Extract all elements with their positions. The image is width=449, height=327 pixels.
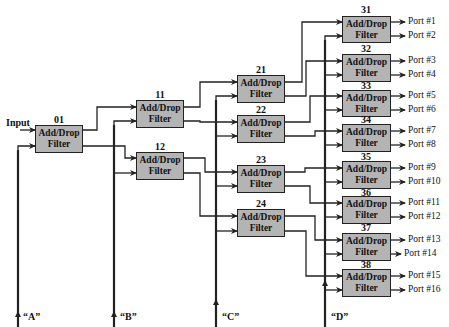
filter-label-line2: Filter <box>149 166 172 177</box>
port-10-label: Port #10 <box>408 176 440 186</box>
port-2-label: Port #2 <box>408 30 436 40</box>
port-12-label: Port #12 <box>408 211 440 221</box>
filter-label-line2: Filter <box>355 104 378 115</box>
filter-label-line2: Filter <box>250 129 273 140</box>
filter-label-line1: Add/Drop <box>240 168 281 179</box>
filter-32[interactable]: Add/Drop Filter <box>342 54 391 82</box>
add-drop-filter-tree-diagram: Input 01 Add/Drop Filter 11 Add/Drop Fil… <box>0 0 449 327</box>
filter-38[interactable]: Add/Drop Filter <box>342 269 391 297</box>
filter-31[interactable]: Add/Drop Filter <box>342 16 391 43</box>
filter-label-line1: Add/Drop <box>346 93 387 104</box>
filter-35[interactable]: Add/Drop Filter <box>342 161 391 189</box>
filter-label-line2: Filter <box>355 210 378 221</box>
port-1-label: Port #1 <box>408 16 436 26</box>
filter-label-line1: Add/Drop <box>346 19 387 30</box>
filter-label-line1: Add/Drop <box>240 78 281 89</box>
filter-label-line2: Filter <box>355 175 378 186</box>
filter-33[interactable]: Add/Drop Filter <box>342 90 391 117</box>
filter-24[interactable]: Add/Drop Filter <box>237 209 285 237</box>
port-16-label: Port #16 <box>408 284 440 294</box>
bus-c-line <box>216 96 237 327</box>
filter-label-line1: Add/Drop <box>38 128 79 139</box>
port-5-label: Port #5 <box>408 90 436 100</box>
port-11-label: Port #11 <box>408 197 440 207</box>
filter-label-line1: Add/Drop <box>346 272 387 283</box>
port-4-label: Port #4 <box>408 69 436 79</box>
port-8-label: Port #8 <box>408 139 436 149</box>
input-label: Input <box>6 117 30 128</box>
filter-label-line2: Filter <box>355 247 378 258</box>
filter-label-line1: Add/Drop <box>346 164 387 175</box>
filter-label-line1: Add/Drop <box>240 118 281 129</box>
bus-c-label: “C” <box>222 311 239 322</box>
filter-id-21: 21 <box>237 64 285 75</box>
filter-id-37: 37 <box>342 222 390 233</box>
filter-label-line2: Filter <box>149 114 172 125</box>
filter-id-11: 11 <box>136 89 184 100</box>
filter-label-line2: Filter <box>48 139 71 150</box>
port-9-label: Port #9 <box>408 162 436 172</box>
filter-34[interactable]: Add/Drop Filter <box>342 124 391 152</box>
port-6-label: Port #6 <box>408 104 436 114</box>
filter-label-line2: Filter <box>250 89 273 100</box>
filter-37[interactable]: Add/Drop Filter <box>342 233 391 261</box>
filter-label-line2: Filter <box>355 68 378 79</box>
filter-label-line1: Add/Drop <box>240 212 281 223</box>
filter-label-line2: Filter <box>250 179 273 190</box>
filter-label-line1: Add/Drop <box>139 155 180 166</box>
filter-id-24: 24 <box>237 198 285 209</box>
filter-12[interactable]: Add/Drop Filter <box>136 152 184 180</box>
port-15-label: Port #15 <box>408 270 440 280</box>
filter-11[interactable]: Add/Drop Filter <box>136 100 184 128</box>
filter-label-line2: Filter <box>250 223 273 234</box>
port-13-label: Port #13 <box>408 234 440 244</box>
filter-21[interactable]: Add/Drop Filter <box>237 75 285 103</box>
port-3-label: Port #3 <box>408 55 436 65</box>
filter-label-line1: Add/Drop <box>346 57 387 68</box>
filter-label-line1: Add/Drop <box>346 199 387 210</box>
filter-id-23: 23 <box>237 154 285 165</box>
filter-23[interactable]: Add/Drop Filter <box>237 165 285 193</box>
filter-label-line2: Filter <box>355 138 378 149</box>
filter-label-line2: Filter <box>355 283 378 294</box>
filter-label-line1: Add/Drop <box>346 127 387 138</box>
bus-a-line <box>18 146 35 327</box>
port-7-label: Port #7 <box>408 125 436 135</box>
filter-label-line1: Add/Drop <box>139 103 180 114</box>
filter-id-32: 32 <box>342 43 390 54</box>
filter-label-line2: Filter <box>355 30 378 41</box>
filter-id-22: 22 <box>237 104 285 115</box>
filter-id-12: 12 <box>136 141 184 152</box>
filter-01[interactable]: Add/Drop Filter <box>35 125 83 153</box>
filter-id-31: 31 <box>342 4 390 15</box>
bus-a-label: “A” <box>23 311 40 322</box>
bus-d-label: “D” <box>331 311 348 322</box>
filter-36[interactable]: Add/Drop Filter <box>342 196 391 224</box>
port-14-label: Port #14 <box>404 248 436 258</box>
filter-22[interactable]: Add/Drop Filter <box>237 115 285 143</box>
bus-b-label: “B” <box>120 311 137 322</box>
filter-label-line1: Add/Drop <box>346 236 387 247</box>
filter-id-01: 01 <box>35 114 83 125</box>
